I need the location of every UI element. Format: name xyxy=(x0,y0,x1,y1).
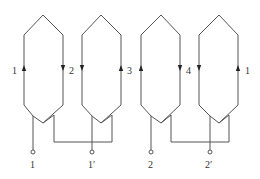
winding-diagram: 1 2 3 4 1 1 1′ 2 2′ xyxy=(0,0,260,179)
label-side-4: 4 xyxy=(186,65,191,76)
arrow-down-icon xyxy=(178,65,182,71)
label-side-3: 3 xyxy=(127,65,132,76)
terminal-label-1-prime: 1′ xyxy=(88,159,95,170)
coil-d xyxy=(197,15,240,152)
terminal-label-2: 2 xyxy=(148,159,153,170)
label-side-2: 2 xyxy=(69,65,74,76)
arrow-up-icon xyxy=(119,65,123,71)
coil-c xyxy=(139,15,182,142)
terminal-2 xyxy=(149,150,153,154)
arrow-down-icon xyxy=(61,65,65,71)
terminal-label-1: 1 xyxy=(30,159,35,170)
coil-c-outline xyxy=(141,15,180,142)
terminal-1 xyxy=(31,150,35,154)
arrow-up-icon xyxy=(139,65,143,71)
terminal-label-2-prime: 2′ xyxy=(205,159,212,170)
coil-b xyxy=(80,15,123,152)
terminal-1-prime xyxy=(90,150,94,154)
arrow-down-icon xyxy=(80,65,84,71)
arrow-up-icon xyxy=(236,65,240,71)
coil-b-outline xyxy=(82,15,121,152)
coil-a xyxy=(22,15,65,142)
label-side-1: 1 xyxy=(12,65,17,76)
terminal-2-prime xyxy=(208,150,212,154)
coil-d-outline xyxy=(199,15,238,152)
label-side-1b: 1 xyxy=(245,65,250,76)
arrow-up-icon xyxy=(22,65,26,71)
arrow-down-icon xyxy=(197,65,201,71)
